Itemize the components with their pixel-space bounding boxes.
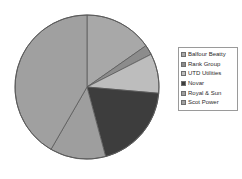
legend-item-label: Scot Power (188, 98, 219, 107)
legend-swatch-icon (181, 91, 186, 96)
legend-item-balfour-beatty[interactable]: Balfour Beatty (181, 50, 235, 60)
legend-swatch-icon (181, 71, 186, 76)
pie-svg (0, 0, 180, 179)
chart-legend: Balfour Beatty Rank Group UTD Utilities … (178, 47, 238, 111)
legend-item-rank-group[interactable]: Rank Group (181, 60, 235, 70)
legend-item-label: Novar (188, 79, 204, 88)
legend-swatch-icon (181, 52, 186, 57)
legend-item-novar[interactable]: Novar (181, 79, 235, 89)
legend-item-utd-utilities[interactable]: UTD Utilities (181, 69, 235, 79)
legend-item-label: UTD Utilities (188, 69, 221, 78)
pie-chart-figure: Balfour Beatty Rank Group UTD Utilities … (0, 0, 242, 179)
pie-slice-group (15, 15, 159, 159)
legend-swatch-icon (181, 62, 186, 67)
legend-swatch-icon (181, 81, 186, 86)
pie-plot-area (0, 0, 180, 179)
legend-item-label: Rank Group (188, 60, 220, 69)
legend-item-label: Balfour Beatty (188, 50, 226, 59)
legend-item-scot-power[interactable]: Scot Power (181, 98, 235, 108)
legend-item-royal-and-sun[interactable]: Royal & Sun (181, 88, 235, 98)
legend-item-label: Royal & Sun (188, 89, 221, 98)
legend-swatch-icon (181, 100, 186, 105)
